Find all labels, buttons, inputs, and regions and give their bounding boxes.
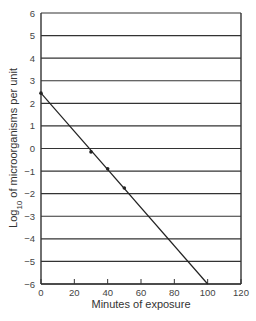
- x-tick-label: 0: [38, 287, 43, 298]
- y-tick-label: −3: [24, 211, 35, 222]
- x-tick-label: 20: [69, 287, 80, 298]
- y-tick-label: 4: [30, 53, 35, 64]
- y-tick-label: −5: [24, 256, 35, 267]
- data-series: [39, 91, 207, 284]
- x-tick-label: 100: [200, 287, 216, 298]
- x-axis-title: Minutes of exposure: [91, 298, 190, 310]
- gridlines: [41, 13, 241, 284]
- y-tick-label: 1: [30, 120, 35, 131]
- y-tick-label: −6: [24, 279, 35, 290]
- data-point: [106, 167, 110, 171]
- y-tick-label: 5: [30, 30, 35, 41]
- data-point: [39, 91, 43, 95]
- y-tick-label: 2: [30, 98, 35, 109]
- y-axis-ticks: 6543210−1−2−3−4−5−6: [24, 8, 35, 290]
- y-tick-label: −2: [24, 188, 35, 199]
- x-tick-label: 80: [169, 287, 180, 298]
- x-tick-label: 60: [136, 287, 147, 298]
- y-axis-title: Log10 of microorganisms per unit: [7, 68, 24, 228]
- y-tick-label: 0: [30, 143, 35, 154]
- y-tick-label: −1: [24, 166, 35, 177]
- x-tick-label: 40: [102, 287, 113, 298]
- data-point: [89, 150, 93, 154]
- chart: 020406080100120 6543210−1−2−3−4−5−6 Minu…: [0, 0, 256, 321]
- y-tick-label: 6: [30, 8, 35, 19]
- y-tick-label: 3: [30, 75, 35, 86]
- x-axis-ticks: 020406080100120: [38, 279, 249, 298]
- x-tick-label: 120: [233, 287, 249, 298]
- data-point: [123, 186, 127, 190]
- y-tick-label: −4: [24, 233, 35, 244]
